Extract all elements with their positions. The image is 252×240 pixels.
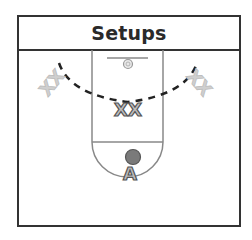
player-point-label: A	[123, 163, 137, 184]
player-left-wing-label: XX	[35, 65, 69, 100]
player-right-wing-label: XX	[182, 65, 216, 100]
player-left-wing: XX	[35, 65, 69, 100]
player-right-wing: XX	[182, 65, 216, 100]
court-diagram: XX XX XX A	[0, 0, 252, 240]
hoop-icon	[124, 60, 133, 69]
player-high-post-label: XX	[114, 99, 142, 120]
basket	[107, 58, 148, 69]
